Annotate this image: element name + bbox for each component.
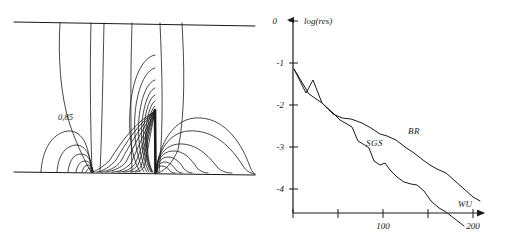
y-tick-label--3: -3 xyxy=(277,142,285,152)
equipotential-field-panel: 0,85 xyxy=(0,0,262,234)
contour-outer-left xyxy=(59,23,91,172)
y-tick-label--2: -2 xyxy=(277,100,285,110)
series-label-sgs: SGS xyxy=(366,138,383,148)
series-label-br: BR xyxy=(408,126,420,136)
series-line-br xyxy=(294,69,480,201)
bottom-boundary-line xyxy=(14,172,255,175)
top-boundary-line xyxy=(14,22,255,26)
y-tick-label-0: 0 xyxy=(273,16,278,26)
convergence-plot-svg: 0 -1 -2 -3 -4 100 200 log(res) WU SGS BR xyxy=(262,0,507,234)
contour-right-loop-3 xyxy=(156,144,232,173)
x-tick-label-100: 100 xyxy=(376,221,390,231)
contour-left-2 xyxy=(90,23,92,172)
y-tick-label--4: -4 xyxy=(277,184,285,194)
field-plot-svg: 0,85 xyxy=(0,0,262,234)
contour-left-3 xyxy=(100,23,104,172)
contour-left-loop-2 xyxy=(57,145,92,172)
contour-value-label: 0,85 xyxy=(58,112,73,122)
x-tick-label-200: 200 xyxy=(466,221,480,231)
x-axis-label: WU xyxy=(458,199,472,209)
contour-left-loop-1 xyxy=(41,131,91,172)
y-tick-label--1: -1 xyxy=(277,58,285,68)
convergence-plot-panel: 0 -1 -2 -3 -4 100 200 log(res) WU SGS BR xyxy=(262,0,507,234)
y-axis-label: log(res) xyxy=(304,16,332,26)
contour-right-loop-2 xyxy=(156,131,255,174)
contour-fan-3 xyxy=(101,112,154,172)
electrode-line xyxy=(155,110,156,173)
figure-container: 0,85 xyxy=(0,0,507,234)
